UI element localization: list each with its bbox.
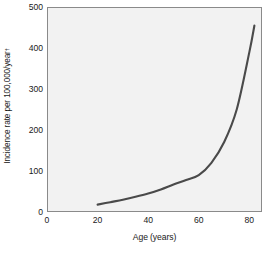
y-axis-title: Incidence rate per 100,000/year†	[0, 0, 14, 212]
y-axis-title-text: Incidence rate per 100,000/year	[3, 51, 12, 164]
x-tick-label: 40	[136, 216, 160, 225]
x-tick-label: 0	[35, 216, 59, 225]
y-tick-label: 200	[17, 126, 43, 135]
x-axis-title: Age (years)	[47, 232, 262, 242]
chart-figure: Incidence rate per 100,000/year† 0100200…	[0, 0, 270, 253]
x-tick-label: 80	[237, 216, 261, 225]
y-tick-label: 100	[17, 167, 43, 176]
y-tick-label: 300	[17, 85, 43, 94]
y-tick-label: 400	[17, 44, 43, 53]
plot-area	[47, 7, 262, 212]
x-tick-label: 60	[187, 216, 211, 225]
x-tick-label: 20	[86, 216, 110, 225]
y-tick-label: 500	[17, 3, 43, 12]
x-tick-label-group: 020406080	[0, 216, 270, 228]
plot-svg	[47, 7, 262, 212]
plot-panel-background	[48, 8, 262, 212]
